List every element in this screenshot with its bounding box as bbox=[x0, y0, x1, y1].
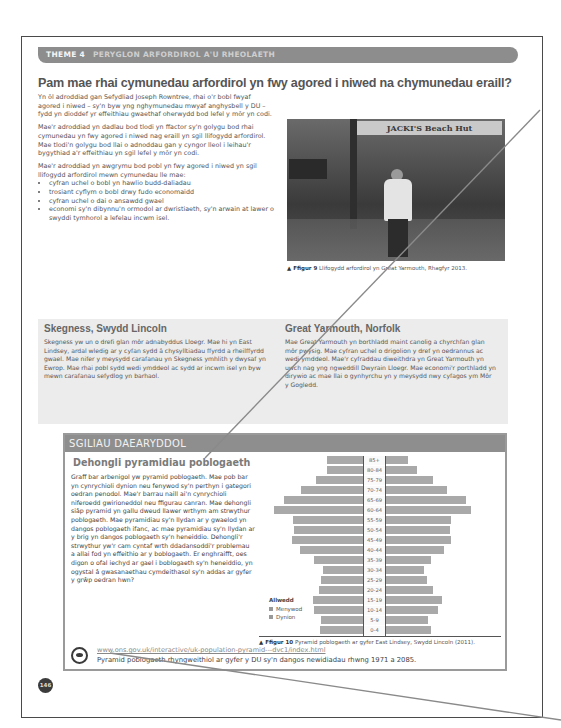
pyramid-bar-left bbox=[314, 606, 363, 614]
pyramid-bar-right bbox=[386, 486, 447, 494]
beach-hut-sign: JACKI'S Beach Hut bbox=[357, 121, 502, 135]
skills-subtitle: Dehongli pyramidiau poblogaeth bbox=[73, 457, 250, 468]
pyramid-bar-left bbox=[323, 566, 363, 574]
theme-header-bar: THEME 4 PERYGLON ARFORDIROL A'U RHEOLAET… bbox=[38, 47, 518, 63]
pyramid-bar-left bbox=[293, 516, 363, 524]
legend-item-men: Dynion bbox=[269, 613, 302, 622]
pyramid-bar-left bbox=[313, 596, 363, 604]
pyramid-bar-left bbox=[294, 526, 363, 534]
pyramid-row: 0-4 bbox=[263, 626, 503, 634]
intro-paragraph: Mae'r adroddiad yn dadlau bod tlodi yn f… bbox=[38, 123, 274, 158]
pyramid-bar-left bbox=[300, 546, 363, 554]
age-group-label: 35-39 bbox=[364, 556, 385, 565]
legend-item-women: Menywod bbox=[269, 605, 302, 614]
intro-paragraph: Yn ôl adroddiad gan Sefydliad Joseph Row… bbox=[38, 93, 274, 119]
pyramid-row: 80-84 bbox=[263, 466, 503, 474]
age-group-label: 50-54 bbox=[364, 526, 385, 535]
age-group-label: 0-4 bbox=[364, 626, 385, 635]
pyramid-bar-right bbox=[386, 476, 433, 484]
pyramid-bar-right bbox=[386, 626, 431, 634]
pyramid-bar-left bbox=[321, 576, 363, 584]
chart-legend: Allwedd Menywod Dynion bbox=[269, 596, 302, 622]
pyramid-bar-right bbox=[386, 596, 442, 604]
ons-pyramid-link[interactable]: www.ons.gov.uk/interactive/uk-population… bbox=[97, 646, 326, 654]
photo-person-jacket bbox=[384, 179, 412, 221]
age-group-label: 85+ bbox=[364, 456, 385, 465]
age-group-label: 45-49 bbox=[364, 536, 385, 545]
photo-pole bbox=[350, 119, 357, 229]
pyramid-row: 30-34 bbox=[263, 566, 503, 574]
age-group-label: 80-84 bbox=[364, 466, 385, 475]
age-group-label: 70-74 bbox=[364, 486, 385, 495]
theme-number: THEME 4 bbox=[46, 50, 85, 59]
pyramid-bar-left bbox=[320, 626, 363, 634]
pyramid-row: 70-74 bbox=[263, 486, 503, 494]
age-group-label: 75-79 bbox=[364, 476, 385, 485]
pyramid-bar-left bbox=[327, 466, 363, 474]
case-study-title: Skegness, Swydd Lincoln bbox=[44, 323, 167, 334]
list-item: economi sy'n dibynnu'n ormodol ar dwrist… bbox=[49, 205, 274, 222]
age-group-label: 55-59 bbox=[364, 516, 385, 525]
age-group-label: 30-34 bbox=[364, 566, 385, 575]
pyramid-bar-right bbox=[386, 586, 433, 594]
photo-person-legs bbox=[388, 219, 408, 257]
pyramid-bar-right bbox=[386, 566, 424, 574]
pyramid-bar-right bbox=[386, 536, 451, 544]
age-group-label: 10-14 bbox=[364, 606, 385, 615]
pyramid-bar-left bbox=[316, 476, 363, 484]
age-group-label: 40-44 bbox=[364, 546, 385, 555]
pyramid-bar-right bbox=[386, 546, 444, 554]
pyramid-row: 25-29 bbox=[263, 576, 503, 584]
case-study-text: Skegness yw un o drefi glan môr adnabydd… bbox=[44, 338, 266, 381]
pyramid-bar-left bbox=[274, 506, 363, 514]
list-item: cyfran uchel o bobl yn hawlio budd-dalia… bbox=[49, 179, 274, 188]
case-study-text: Mae Great Yarmouth yn borthladd maint ca… bbox=[285, 338, 497, 390]
pyramid-bar-right bbox=[386, 616, 428, 624]
age-group-label: 65-69 bbox=[364, 496, 385, 505]
pyramid-bar-right bbox=[386, 506, 471, 514]
pyramid-bar-left bbox=[284, 496, 363, 504]
age-group-label: 60-64 bbox=[364, 506, 385, 515]
pyramid-bar-right bbox=[386, 606, 438, 614]
figure10-label: ▲ Ffigur 10 bbox=[259, 639, 293, 645]
legend-label: Dynion bbox=[276, 614, 295, 620]
flood-photo: JACKI'S Beach Hut bbox=[287, 119, 505, 261]
figure9-label: ▲ Ffigur 9 bbox=[287, 265, 317, 271]
pyramid-bar-right bbox=[386, 456, 408, 464]
pyramid-bar-left bbox=[319, 586, 363, 594]
figure9-caption-text: Llifogydd arfordirol yn Great Yarmouth, … bbox=[319, 265, 467, 271]
pyramid-bar-left bbox=[321, 616, 363, 624]
legend-title: Allwedd bbox=[269, 596, 302, 605]
page-number: 146 bbox=[38, 678, 53, 693]
photo-window bbox=[289, 159, 327, 179]
bullet-list: cyfran uchel o bobl yn hawlio budd-dalia… bbox=[38, 179, 274, 223]
pyramid-bar-right bbox=[386, 556, 431, 564]
pyramid-bar-right bbox=[386, 466, 417, 474]
pyramid-row: 35-39 bbox=[263, 556, 503, 564]
pyramid-row: 50-54 bbox=[263, 526, 503, 534]
pyramid-row: 65-69 bbox=[263, 496, 503, 504]
theme-title: PERYGLON ARFORDIROL A'U RHEOLAETH bbox=[93, 50, 275, 59]
age-group-label: 15-19 bbox=[364, 596, 385, 605]
list-item: trosiant cyflym o bobl drwy fudo economa… bbox=[49, 188, 274, 197]
web-link-icon bbox=[71, 647, 88, 664]
pyramid-bar-left bbox=[292, 536, 363, 544]
age-group-label: 5-9 bbox=[364, 616, 385, 625]
legend-label: Menywod bbox=[276, 606, 302, 612]
chart-baseline bbox=[259, 636, 501, 637]
pyramid-row: 60-64 bbox=[263, 506, 503, 514]
skills-text: Graff bar arbenigol yw pyramid poblogaet… bbox=[71, 473, 255, 585]
figure10-caption-text: Pyramid poblogaeth ar gyfer East Lindsey… bbox=[295, 639, 475, 645]
figure9-caption: ▲ Ffigur 9 Llifogydd arfordirol yn Great… bbox=[287, 265, 502, 273]
pyramid-bar-right bbox=[386, 526, 450, 534]
legend-swatch bbox=[269, 607, 273, 611]
age-group-label: 25-29 bbox=[364, 576, 385, 585]
pyramid-bar-right bbox=[386, 496, 466, 504]
web-link-description: Pyramid poblogaeth rhyngweithiol ar gyfe… bbox=[97, 656, 416, 664]
pyramid-bar-right bbox=[386, 516, 451, 524]
intro-paragraph: Mae'r adroddiad yn awgrymu bod pobl yn f… bbox=[38, 162, 274, 179]
intro-text: Yn ôl adroddiad gan Sefydliad Joseph Row… bbox=[38, 93, 274, 223]
pyramid-row: 45-49 bbox=[263, 536, 503, 544]
list-item: cyfran uchel o dai o ansawdd gwael bbox=[49, 197, 274, 206]
pyramid-row: 75-79 bbox=[263, 476, 503, 484]
